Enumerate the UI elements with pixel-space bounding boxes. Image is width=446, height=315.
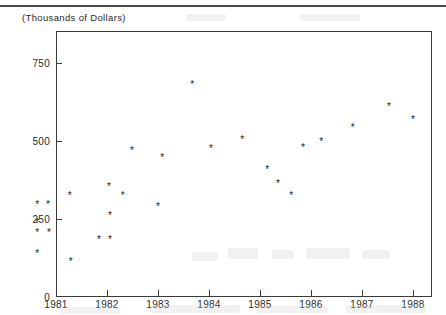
scan-artifact [258, 306, 328, 313]
y-tick-label: 250 [16, 214, 50, 225]
y-tick-label: 500 [16, 136, 50, 147]
scan-artifact [300, 14, 360, 21]
y-axis-tick-labels: 0250500750 [0, 0, 50, 315]
scan-artifact [150, 305, 240, 313]
x-tick-mark [260, 290, 261, 297]
y-tick-mark [56, 63, 62, 64]
x-tick-mark [158, 290, 159, 297]
y-tick-mark [56, 219, 62, 220]
x-tick-mark [209, 290, 210, 297]
scan-artifact [346, 305, 426, 313]
y-tick-mark [56, 141, 62, 142]
scan-artifact [192, 252, 218, 261]
scan-artifact [272, 250, 294, 259]
scan-artifact [306, 248, 350, 259]
scan-artifact [60, 307, 120, 314]
scan-artifact [228, 248, 258, 259]
page-top-rule [0, 5, 446, 7]
y-tick-label: 750 [16, 58, 50, 69]
x-tick-mark [56, 290, 57, 297]
x-tick-mark [311, 290, 312, 297]
x-tick-mark [413, 290, 414, 297]
scan-artifact [362, 250, 390, 259]
scan-artifact [186, 14, 226, 21]
x-tick-mark [107, 290, 108, 297]
x-tick-mark [362, 290, 363, 297]
